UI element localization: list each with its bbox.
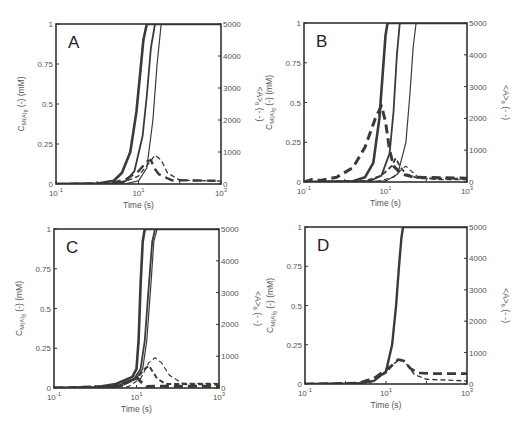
y-left-tick-label: 0 <box>49 180 54 189</box>
x-tick-label: 103 <box>461 185 474 196</box>
x-axis-label: Time (s) <box>123 200 154 210</box>
chart-panel-b: 00.250.50.75101000200030004000500010-110… <box>264 19 511 208</box>
plot-frame <box>56 24 221 184</box>
y-right-tick-label: 2000 <box>223 116 241 125</box>
y-right-tick-label: 3000 <box>223 84 241 93</box>
y-right-tick-label: 5000 <box>223 20 241 29</box>
y-left-tick-label: 0.75 <box>286 262 302 271</box>
y-right-tick-label: 4000 <box>223 52 241 61</box>
y-left-tick-label: 0.75 <box>37 60 53 69</box>
y-left-tick-label: 0 <box>298 380 303 389</box>
y-right-tick-label: 4000 <box>221 257 239 266</box>
y-right-tick-label: 5000 <box>469 223 487 232</box>
x-axis-label: Time (s) <box>370 198 401 208</box>
y-left-tick-label: 0.25 <box>285 138 301 147</box>
y-left-tick-label: 0.25 <box>37 140 53 149</box>
x-tick-label: 101 <box>380 387 393 398</box>
y-left-axis-label: CM(A)8 (-) (mM) <box>265 278 278 333</box>
series-group <box>56 24 221 184</box>
y-right-tick-label: 4000 <box>469 51 487 60</box>
y-left-axis-label: CM(A)8 (-) (mM) <box>14 281 27 336</box>
y-left-tick-label: 0.75 <box>35 265 51 274</box>
y-right-axis-label: <A>8 (- -) <box>500 85 511 120</box>
x-tick-label: 10-1 <box>49 187 64 198</box>
y-right-tick-label: 1000 <box>469 146 487 155</box>
x-axis-label: Time (s) <box>371 400 402 410</box>
series-group <box>304 23 467 182</box>
series-group <box>54 229 219 388</box>
y-left-tick-label: 0.5 <box>40 305 52 314</box>
series-group <box>305 227 467 384</box>
y-left-tick-label: 0.5 <box>290 99 302 108</box>
y-right-axis-label: <A>8 (- -) <box>252 291 263 326</box>
faint-caption-remnant <box>300 420 500 426</box>
panel-label: C <box>66 238 78 257</box>
series-dashed-2 <box>304 158 467 182</box>
x-tick-label: 10-1 <box>298 387 313 398</box>
y-left-tick-label: 0.25 <box>35 344 51 353</box>
y-left-tick-label: 0.5 <box>291 302 303 311</box>
y-right-tick-label: 1000 <box>469 349 487 358</box>
x-tick-label: 10-1 <box>297 185 312 196</box>
panel-label: A <box>68 33 80 52</box>
y-right-tick-label: 2000 <box>469 317 487 326</box>
x-axis-label: Time (s) <box>121 404 152 414</box>
y-left-axis-label: CM(A)8 (-) (mM) <box>16 76 29 131</box>
y-left-tick-label: 1 <box>298 223 303 232</box>
y-left-tick-label: 0.25 <box>286 341 302 350</box>
y-left-tick-label: 1 <box>47 225 52 234</box>
y-right-tick-label: 4000 <box>469 254 487 263</box>
y-left-tick-label: 1 <box>49 20 54 29</box>
y-left-tick-label: 0.75 <box>285 59 301 68</box>
y-right-tick-label: 2000 <box>469 114 487 123</box>
y-right-axis-label: <A>8 (- -) <box>500 288 511 323</box>
panel-label: B <box>316 32 327 51</box>
y-right-tick-label: 3000 <box>469 83 487 92</box>
y-left-tick-label: 0.5 <box>42 100 54 109</box>
plot-frame <box>305 227 467 384</box>
y-right-tick-label: 3000 <box>221 289 239 298</box>
chart-panel-d: 00.250.50.75101000200030004000500010-110… <box>265 223 511 410</box>
y-right-tick-label: 2000 <box>221 320 239 329</box>
y-right-tick-label: 1000 <box>221 352 239 361</box>
chart-panel-c: 00.250.50.75101000200030004000500010-110… <box>14 225 263 414</box>
x-tick-label: 103 <box>213 391 226 402</box>
y-right-tick-label: 1000 <box>223 148 241 157</box>
y-left-tick-label: 1 <box>297 19 302 28</box>
x-tick-label: 103 <box>461 387 474 398</box>
y-left-tick-label: 0 <box>47 384 52 393</box>
y-left-tick-label: 0 <box>297 178 302 187</box>
x-tick-label: 101 <box>379 185 392 196</box>
panel-label: D <box>317 236 329 255</box>
x-tick-label: 10-1 <box>47 391 62 402</box>
chart-panel-a: 00.250.50.75101000200030004000500010-110… <box>16 20 265 210</box>
y-right-tick-label: 5000 <box>469 19 487 28</box>
x-tick-label: 101 <box>130 391 143 402</box>
y-right-tick-label: 3000 <box>469 286 487 295</box>
y-left-axis-label: CM(A)8 (-) (mM) <box>264 75 277 130</box>
x-tick-label: 103 <box>215 187 228 198</box>
x-tick-label: 101 <box>132 187 145 198</box>
y-right-tick-label: 5000 <box>221 225 239 234</box>
figure-svg: 00.250.50.75101000200030004000500010-110… <box>0 0 528 429</box>
